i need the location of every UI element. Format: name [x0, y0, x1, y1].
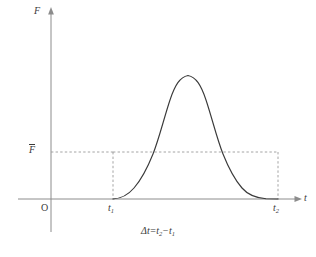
x-axis-label: t — [304, 193, 307, 203]
interval-caption: Δt=t2−t1 — [0, 226, 316, 236]
t2-tick-label: t2 — [273, 203, 279, 213]
t2-subscript: 2 — [276, 207, 279, 214]
mean-force-label: F — [29, 145, 35, 155]
caption-t2-sub: 2 — [159, 230, 162, 237]
impulse-force-time-figure: F t O F t1 t2 Δt=t2−t1 — [0, 0, 316, 257]
t1-subscript: 1 — [111, 207, 114, 214]
y-axis-label: F — [34, 6, 40, 16]
y-axis-arrowhead — [48, 7, 54, 15]
x-axis-arrowhead — [295, 196, 303, 202]
plot-canvas — [0, 0, 316, 257]
overline-bar — [29, 144, 35, 145]
mean-force-letter: F — [29, 144, 35, 155]
caption-minus: − — [162, 225, 169, 236]
origin-label: O — [41, 203, 48, 213]
caption-t1-sub: 1 — [172, 230, 175, 237]
force-curve — [113, 76, 278, 200]
t1-tick-label: t1 — [108, 203, 114, 213]
